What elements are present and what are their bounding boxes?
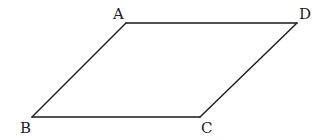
- vertex-label-b: B: [20, 119, 31, 137]
- vertex-label-c: C: [201, 119, 212, 137]
- vertex-label-d: D: [299, 5, 311, 23]
- edge-dc: [200, 23, 297, 117]
- vertex-label-a: A: [112, 5, 124, 23]
- edge-ba: [32, 23, 126, 117]
- parallelogram-diagram: A D C B: [0, 0, 325, 140]
